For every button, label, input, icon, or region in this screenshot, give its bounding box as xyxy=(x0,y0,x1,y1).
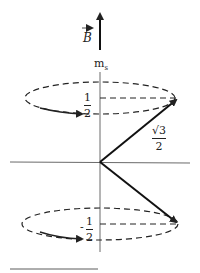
magnitude-denominator: 2 xyxy=(156,140,163,153)
axis-label: ms xyxy=(94,58,108,72)
upper-value-label: 1 2 xyxy=(84,91,91,120)
magnitude-numerator: √3 xyxy=(152,124,166,137)
axis-label-main: m xyxy=(94,57,104,70)
field-label: B xyxy=(83,32,92,44)
upper-numerator: 1 xyxy=(84,91,91,104)
lower-numerator: 1 xyxy=(86,215,93,228)
spin-down-vector xyxy=(100,162,176,222)
lower-denominator: 2 xyxy=(86,231,93,244)
spin-magnitude-label: √3 2 xyxy=(152,124,166,153)
lower-value-label: 1 2 xyxy=(86,215,93,244)
spin-precession-diagram xyxy=(0,0,200,273)
upper-denominator: 2 xyxy=(84,107,91,120)
lower-sign: - xyxy=(80,222,84,233)
upper-rotation-arrow xyxy=(40,108,82,114)
axis-label-subscript: s xyxy=(104,64,108,72)
